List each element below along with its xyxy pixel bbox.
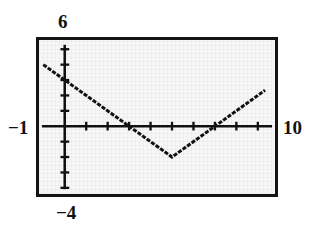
curve-absolute-value — [43, 65, 265, 157]
plot-canvas — [39, 40, 275, 194]
axis-label-y-min: −4 — [56, 203, 76, 222]
graph-figure: 6 −4 −1 10 — [0, 0, 321, 234]
axis-label-x-min: −1 — [8, 118, 28, 137]
plot-frame — [36, 37, 278, 197]
axis-label-y-max: 6 — [58, 12, 68, 31]
axes-group — [42, 45, 272, 189]
axis-label-x-max: 10 — [283, 118, 302, 137]
